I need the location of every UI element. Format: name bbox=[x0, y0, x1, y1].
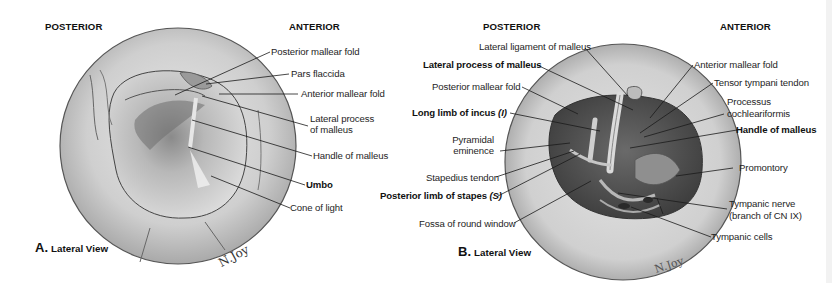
panel-b-orientation-anterior: ANTERIOR bbox=[720, 21, 771, 32]
label-tympanic-nerve-line1: Tympanic nerve bbox=[729, 198, 795, 210]
label-handle-of-malleus-b: Handle of malleus bbox=[736, 124, 816, 136]
label-processus-cochleariformis-line2: cochleariformis bbox=[727, 108, 790, 120]
panel-a-orientation-posterior: POSTERIOR bbox=[45, 21, 102, 32]
panel-a-letter: A. bbox=[35, 240, 48, 255]
label-lateral-process-a-line2: of malleus bbox=[310, 124, 353, 136]
label-promontory: Promontory bbox=[739, 162, 788, 174]
panel-a-caption: A.Lateral View bbox=[35, 240, 108, 255]
label-anterior-mallear-fold-a: Anterior mallear fold bbox=[301, 88, 385, 100]
label-stapedius-tendon: Stapedius tendon bbox=[426, 172, 499, 184]
label-handle-of-malleus-a: Handle of malleus bbox=[313, 150, 388, 162]
label-lateral-process-of-malleus-b: Lateral process of malleus bbox=[423, 59, 541, 71]
label-posterior-mallear-fold-a: Posterior mallear fold bbox=[271, 46, 359, 58]
panel-b-caption: B.Lateral View bbox=[458, 244, 531, 259]
label-processus-cochleariformis-line1: Processus bbox=[727, 96, 771, 108]
label-pyramidal-eminence-line1: Pyramidal bbox=[440, 134, 494, 146]
panel-b-letter: B. bbox=[458, 244, 471, 259]
panel-a-orientation-anterior: ANTERIOR bbox=[289, 21, 340, 32]
label-fossa-of-round-window: Fossa of round window bbox=[419, 218, 516, 230]
label-umbo: Umbo bbox=[306, 179, 333, 191]
label-anterior-mallear-fold-b: Anterior mallear fold bbox=[694, 59, 778, 71]
panel-a-caption-text: Lateral View bbox=[51, 243, 108, 254]
panel-b-caption-text: Lateral View bbox=[474, 247, 531, 258]
panel-b-orientation-posterior: POSTERIOR bbox=[483, 21, 540, 32]
label-lateral-process-a-line1: Lateral process bbox=[310, 113, 374, 125]
label-pyramidal-eminence-line2: eminence bbox=[440, 145, 494, 157]
label-cone-of-light: Cone of light bbox=[290, 202, 343, 214]
label-lateral-ligament-of-malleus: Lateral ligament of malleus bbox=[479, 41, 591, 53]
panel-a-drawing: N.Joy bbox=[60, 28, 296, 270]
label-tympanic-nerve-line2: (branch of CN IX) bbox=[729, 210, 802, 222]
illustration: N.Joy N.Joy bbox=[0, 0, 832, 283]
label-tympanic-cells: Tympanic cells bbox=[711, 231, 773, 243]
label-tensor-tympani-tendon: Tensor tympani tendon bbox=[714, 77, 809, 89]
label-long-limb-of-incus: Long limb of incus (I) bbox=[412, 107, 507, 119]
label-posterior-mallear-fold-b: Posterior mallear fold bbox=[432, 81, 520, 93]
label-pars-flaccida: Pars flaccida bbox=[291, 68, 345, 80]
label-posterior-limb-of-stapes: Posterior limb of stapes (S) bbox=[380, 190, 502, 202]
